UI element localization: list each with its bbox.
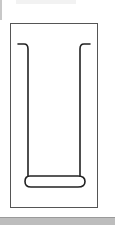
bottom-scrollbar[interactable] (0, 217, 115, 225)
tube-diagram-icon (0, 0, 115, 225)
